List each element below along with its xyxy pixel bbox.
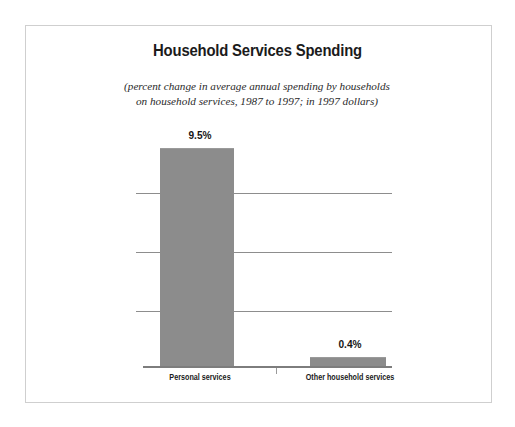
chart-subtitle: (percent change in average annual spendi… — [57, 79, 457, 108]
chart-figure: Household Services Spending (percent cha… — [0, 0, 515, 427]
gridline-tick-6 — [136, 252, 143, 253]
x-axis-baseline — [143, 366, 392, 368]
bar-value-personal-services: 9.5% — [145, 129, 255, 141]
bar-personal-services[interactable] — [160, 148, 234, 367]
plot-area — [143, 140, 392, 368]
gridline-tick-9 — [136, 193, 143, 194]
chart-title: Household Services Spending — [26, 41, 490, 60]
chart-subtitle-line-1: (percent change in average annual spendi… — [57, 79, 457, 94]
category-label-personal-services: Personal services — [147, 373, 253, 382]
gridline-tick-3 — [136, 311, 143, 312]
bar-value-other-household-services: 0.4% — [295, 338, 405, 350]
category-label-other-household-services: Other household services — [297, 373, 403, 382]
chart-subtitle-line-2: on household services, 1987 to 1997; in … — [57, 94, 457, 109]
x-axis-mid-tick — [276, 368, 277, 374]
